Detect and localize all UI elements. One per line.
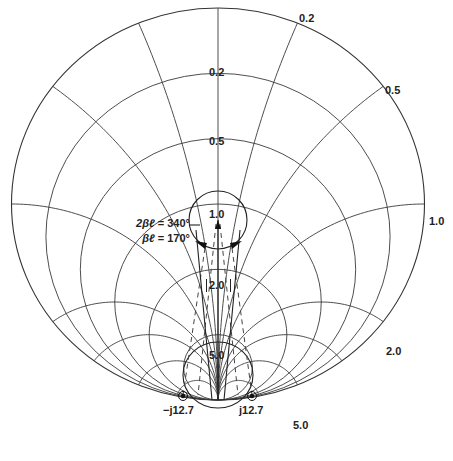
annotation-beta-l-symbol: βℓ bbox=[142, 232, 155, 244]
construction-overlay bbox=[179, 191, 257, 408]
marker-negative-j12-7-icon-dot bbox=[181, 394, 185, 398]
radial-line-right bbox=[224, 230, 240, 400]
resistance-label-0-5: 0.5 bbox=[209, 136, 224, 147]
marker-positive-j12-7-icon-dot bbox=[250, 394, 254, 398]
dashed-line-left bbox=[183, 248, 205, 395]
smith-chart bbox=[0, 0, 453, 461]
resistance-label-0-2: 0.2 bbox=[209, 67, 224, 78]
annotation-2-beta-l-symbol: 2βℓ bbox=[136, 217, 155, 229]
annotation-2-beta-l-value: = 340° bbox=[155, 217, 190, 229]
reactance-label-2-0: 2.0 bbox=[386, 346, 401, 357]
arrowhead-left-icon bbox=[195, 241, 207, 249]
annotation-beta-l: βℓ = 170° bbox=[130, 233, 190, 244]
resistance-label-5-0: 5.0 bbox=[209, 350, 224, 361]
reactance-label-5-0: 5.0 bbox=[293, 420, 308, 431]
marker-label-negative-j12-7: −j12.7 bbox=[163, 405, 194, 416]
reactance-label-0-5: 0.5 bbox=[385, 85, 400, 96]
annotation-2-beta-l: 2βℓ = 340° bbox=[130, 218, 190, 229]
resistance-label-1-0: 1.0 bbox=[209, 209, 224, 220]
resistance-label-2-0: 2.0 bbox=[209, 280, 224, 291]
reactance-label-1-0: 1.0 bbox=[429, 216, 444, 227]
marker-label-positive-j12-7: j12.7 bbox=[239, 405, 263, 416]
reactance-label-0-2: 0.2 bbox=[299, 13, 314, 24]
radial-line-left bbox=[196, 230, 212, 400]
annotation-beta-l-value: = 170° bbox=[155, 232, 190, 244]
